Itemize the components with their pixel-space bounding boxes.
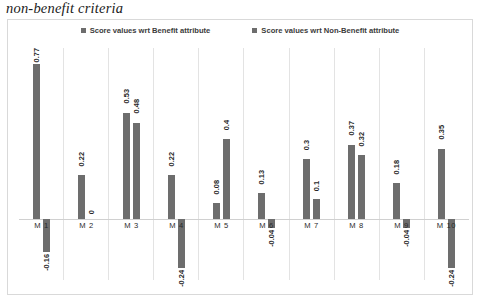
bar-value-label: 0.4 — [223, 120, 230, 130]
bar-value-label: 0.18 — [393, 160, 400, 174]
bar-pair: 0.35-0.24 — [424, 48, 469, 280]
category-label: M 3 — [109, 221, 154, 230]
bar-value-label: -0.04 — [268, 230, 275, 247]
bar-pair: 0.13-0.04 — [244, 48, 289, 280]
bar[interactable] — [438, 149, 445, 220]
bar-value-label: -0.16 — [43, 254, 50, 271]
bar-group: 0.530.48M 3 — [109, 48, 154, 280]
bar-slot: 0.53 — [123, 48, 130, 280]
bar-slot: -0.24 — [448, 48, 455, 280]
chart-frame: Score values wrt Benefit attribute Score… — [7, 19, 473, 295]
bar[interactable] — [348, 145, 355, 220]
bar-value-label: 0.53 — [123, 89, 130, 103]
figure-caption: non-benefit criteria — [6, 0, 123, 17]
bar-pair: 0.370.32 — [334, 48, 379, 280]
bar-group: 0.080.4M 5 — [199, 48, 244, 280]
legend-entry-non-benefit: Score values wrt Non-Benefit attribute — [252, 26, 399, 35]
bar-pair: 0.77-0.16 — [19, 48, 64, 280]
category-label: M 5 — [199, 221, 244, 230]
bar[interactable] — [123, 113, 130, 220]
legend-entry-benefit: Score values wrt Benefit attribute — [81, 26, 211, 35]
category-label: M 8 — [334, 221, 379, 230]
bar-group: 0.220M 2 — [64, 48, 109, 280]
bar-group: 0.370.32M 8 — [334, 48, 379, 280]
bar[interactable] — [313, 199, 320, 219]
bar-value-label: -0.04 — [403, 230, 410, 247]
bar-group: 0.22-0.24M 4 — [154, 48, 199, 280]
bar-slot: 0.22 — [168, 48, 175, 280]
legend-swatch-non-benefit — [252, 28, 257, 33]
bar[interactable] — [213, 203, 220, 219]
bar-pair: 0.30.1 — [289, 48, 334, 280]
bar-slot: 0.18 — [393, 48, 400, 280]
bar-value-label: -0.24 — [178, 270, 185, 287]
legend-swatch-benefit — [81, 28, 86, 33]
bar-pair: 0.22-0.24 — [154, 48, 199, 280]
bar-slot: 0.32 — [358, 48, 365, 280]
category-label: M 2 — [64, 221, 109, 230]
bar-group: 0.35-0.24M 10 — [424, 48, 469, 280]
bar-slot: -0.24 — [178, 48, 185, 280]
bar-slot: -0.04 — [403, 48, 410, 280]
bar-slot: 0.08 — [213, 48, 220, 280]
category-label: M 6 — [244, 221, 289, 230]
bar-value-label: -0.24 — [448, 270, 455, 287]
bar-value-label: 0.13 — [258, 170, 265, 184]
bar-pair: 0.18-0.04 — [379, 48, 424, 280]
category-label: M 9 — [379, 221, 424, 230]
bar-group: 0.13-0.04M 6 — [244, 48, 289, 280]
bar[interactable] — [33, 64, 40, 219]
bar-pair: 0.220 — [64, 48, 109, 280]
bar[interactable] — [133, 123, 140, 220]
bar-slot: 0.1 — [313, 48, 320, 280]
bar-slot: 0.3 — [303, 48, 310, 280]
bar-group: 0.77-0.16M 1 — [19, 48, 64, 280]
legend-label-non-benefit: Score values wrt Non-Benefit attribute — [261, 26, 399, 35]
bar-value-label: 0.22 — [168, 152, 175, 166]
category-label: M 7 — [289, 221, 334, 230]
bar-slot: 0.48 — [133, 48, 140, 280]
category-label: M 4 — [154, 221, 199, 230]
bar[interactable] — [393, 183, 400, 219]
plot-area: 0.77-0.16M 10.220M 20.530.48M 30.22-0.24… — [19, 48, 469, 280]
bar-slot: -0.16 — [43, 48, 50, 280]
bar-value-label: 0 — [88, 210, 95, 214]
bar-value-label: 0.77 — [33, 48, 40, 62]
bar-slot: 0.4 — [223, 48, 230, 280]
bar-groups: 0.77-0.16M 10.220M 20.530.48M 30.22-0.24… — [19, 48, 469, 280]
bar[interactable] — [303, 159, 310, 220]
bar-slot: 0.77 — [33, 48, 40, 280]
bar-group: 0.30.1M 7 — [289, 48, 334, 280]
bar-pair: 0.080.4 — [199, 48, 244, 280]
bar-slot: -0.04 — [268, 48, 275, 280]
legend-label-benefit: Score values wrt Benefit attribute — [90, 26, 211, 35]
bar-value-label: 0.3 — [303, 140, 310, 150]
category-label: M 1 — [19, 221, 64, 230]
category-label: M 10 — [424, 221, 469, 230]
bar-value-label: 0.35 — [438, 125, 445, 139]
chart-legend: Score values wrt Benefit attribute Score… — [8, 26, 472, 35]
bar-group: 0.18-0.04M 9 — [379, 48, 424, 280]
bar-value-label: 0.22 — [78, 152, 85, 166]
bar-value-label: 0.48 — [133, 99, 140, 113]
bar[interactable] — [258, 193, 265, 219]
bar-slot: 0.37 — [348, 48, 355, 280]
bar-value-label: 0.08 — [213, 180, 220, 194]
bar-pair: 0.530.48 — [109, 48, 154, 280]
bar[interactable] — [168, 175, 175, 219]
bar[interactable] — [358, 155, 365, 220]
bar-slot: 0.13 — [258, 48, 265, 280]
bar-slot: 0.22 — [78, 48, 85, 280]
bar-value-label: 0.1 — [313, 181, 320, 191]
bar-value-label: 0.37 — [348, 121, 355, 135]
bar-slot: 0.35 — [438, 48, 445, 280]
bar[interactable] — [78, 175, 85, 219]
bar[interactable] — [223, 139, 230, 220]
bar-value-label: 0.32 — [358, 132, 365, 146]
bar-slot: 0 — [88, 48, 95, 280]
